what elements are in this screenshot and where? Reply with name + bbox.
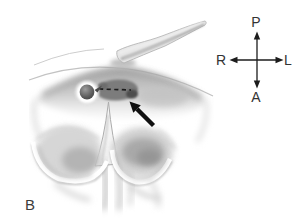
compass-label-anterior: A: [251, 90, 260, 104]
compass-label-left: L: [284, 53, 292, 67]
left-rounded-body: [32, 126, 108, 200]
compass-label-right: R: [216, 53, 226, 67]
compass-arrow-right-icon: [276, 57, 284, 63]
figure-panel: P A R L B: [0, 0, 306, 224]
compass-arrow-left-icon: [230, 57, 238, 63]
orientation-compass: [230, 32, 284, 89]
compass-arrow-down-icon: [254, 81, 260, 89]
endoscope-tube: [117, 21, 206, 63]
compass-arrow-up-icon: [254, 32, 260, 40]
anatomical-illustration: [0, 0, 306, 224]
compass-label-posterior: P: [251, 15, 260, 29]
panel-label: B: [25, 197, 35, 212]
